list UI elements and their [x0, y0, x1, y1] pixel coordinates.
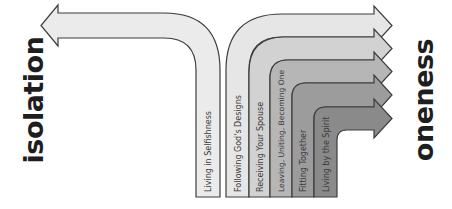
isolation-oneness-diagram: Living in Selfishness Following God's De…: [0, 0, 452, 209]
oneness-label: oneness: [408, 39, 439, 161]
isolation-label: isolation: [18, 37, 49, 164]
band-label-following-gods-designs: Following God's Designs: [234, 95, 243, 192]
band-label-living-in-selfishness: Living in Selfishness: [204, 111, 213, 192]
arrow-living-in-selfishness: Living in Selfishness: [41, 5, 220, 197]
left-arrow-shape: [41, 5, 220, 197]
band-label-fitting-together: Fitting Together: [299, 129, 308, 192]
band-label-receiving-your-spouse: Receiving Your Spouse: [256, 102, 265, 192]
band-label-leaving-uniting-becoming-one: Leaving, Uniting, Becoming One: [277, 69, 286, 192]
band-label-living-by-the-spirit: Living by the Spirit: [322, 117, 331, 192]
